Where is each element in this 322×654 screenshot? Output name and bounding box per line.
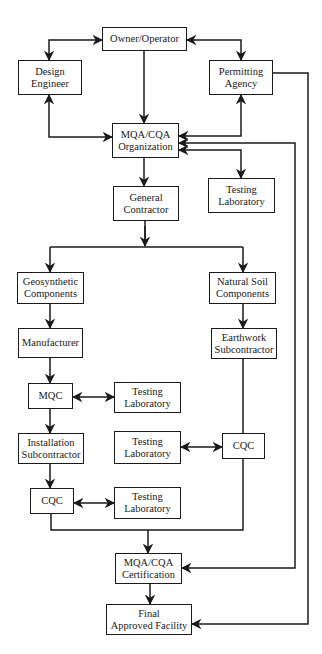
node-earthwork-subcontractor: Earthwork Subcontractor (211, 328, 277, 359)
node-final-approved-facility: Final Approved Facility (106, 604, 192, 635)
node-testing-laboratory-2: Testing Laboratory (114, 382, 181, 413)
edge-design-mqa-org (49, 95, 112, 137)
node-cqc-left: CQC (30, 488, 74, 514)
node-manufacturer: Manufacturer (18, 328, 83, 358)
node-permitting-agency: Permitting Agency (209, 60, 273, 95)
node-mqa-cqa-certification: MQA/CQA Certification (115, 553, 182, 584)
edge-mqa-org-testing-lab-1 (179, 150, 241, 178)
node-mqc: MQC (28, 383, 73, 409)
node-testing-laboratory-1: Testing Laboratory (208, 178, 275, 213)
edge-permitting-mqa-org (179, 95, 241, 136)
node-owner-operator: Owner/Operator (102, 27, 187, 51)
node-natural-soil-components: Natural Soil Components (209, 272, 276, 304)
flowchart-canvas: Owner/Operator Design Engineer Permittin… (0, 0, 322, 654)
edge-owner-design (49, 40, 102, 60)
node-cqc-right: CQC (222, 433, 265, 459)
node-geosynthetic-components: Geosynthetic Components (17, 272, 84, 304)
edge-owner-permitting (187, 40, 241, 60)
node-testing-laboratory-3: Testing Laboratory (114, 431, 181, 464)
node-mqa-cqa-organization: MQA/CQA Organization (112, 123, 179, 158)
node-installation-subcontractor: Installation Subcontractor (18, 433, 84, 464)
node-general-contractor: General Contractor (113, 186, 179, 221)
node-design-engineer: Design Engineer (18, 60, 82, 95)
node-testing-laboratory-4: Testing Laboratory (114, 487, 181, 519)
